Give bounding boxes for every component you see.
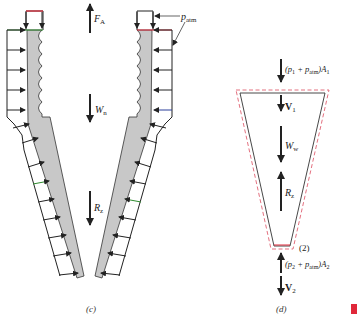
nozzle-force-diagram: patm FA Wn Rz (c) (p1 + patm)A1 V1 Ww Rz…: [0, 0, 357, 318]
label-fa: FA: [93, 13, 105, 26]
label-wn: Wn: [95, 104, 107, 117]
control-volume-boundary: [236, 90, 329, 249]
label-section-2: (2): [299, 243, 310, 253]
left-nozzle-wall: [27, 30, 84, 278]
fluid-volume-outline: [240, 93, 325, 246]
end-marker: [351, 304, 357, 314]
panel-c-nozzle: patm FA Wn Rz (c): [7, 4, 197, 314]
label-v2: V2: [285, 282, 296, 295]
label-rz: Rz: [93, 202, 103, 215]
right-nozzle-wall: [95, 30, 152, 278]
caption-d: (d): [276, 304, 287, 314]
label-ww: Ww: [285, 140, 299, 153]
panel-d-control-volume: (p1 + patm)A1 V1 Ww Rz (2) (p2 + patm)A2…: [236, 59, 329, 314]
label-bottom-force: (p2 + patm)A2: [285, 259, 329, 270]
label-top-force: (p1 + patm)A1: [285, 64, 329, 75]
label-v1: V1: [285, 101, 296, 114]
label-patm: patm: [180, 11, 197, 24]
label-rz-d: Rz: [284, 187, 294, 200]
caption-c: (c): [86, 304, 96, 314]
